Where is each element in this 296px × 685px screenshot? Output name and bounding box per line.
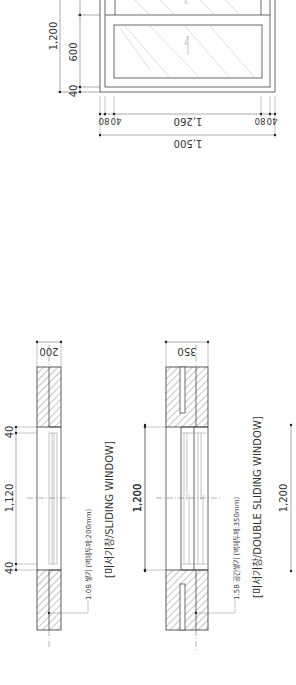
- wall-note-1.5b: 1.5B 공간쌓기 (벽체두께:350mm): [232, 497, 241, 600]
- dim-opening-1200-double: 1,200: [132, 484, 143, 513]
- dim-overall-1200-double: 1,200: [278, 484, 289, 513]
- wall-thickness-200: 200: [39, 346, 58, 357]
- cavity-wall-section-lower: [166, 570, 208, 630]
- elevation-inner-frame: [105, 0, 270, 87]
- sash-handle-icon: [185, 36, 188, 55]
- dim-sash-right: 80: [255, 116, 266, 126]
- plan-sliding-window: 200 40 1,120 40 1.0B 쌓기 (벽체두께:200mm) [미서…: [4, 340, 146, 648]
- dim-total-width: 1,500: [174, 138, 203, 149]
- title-double-sliding-window: [미서기창/DOUBLE SLIDING WINDOW]: [252, 416, 263, 598]
- dim-1120: 1,120: [4, 484, 15, 513]
- cavity-wall-section-upper: [166, 367, 208, 427]
- title-sliding-window: [미서기창/SLIDING WINDOW]: [104, 441, 115, 578]
- cavity-gap-upper: [180, 367, 185, 413]
- dim-frame-left: 40: [111, 116, 122, 126]
- plan-double-sliding-window: 350 1,200 1.5B 공간쌓기 (벽체두께:350mm) [미서기창/D…: [132, 340, 292, 652]
- dim-height-total: 1,200: [48, 22, 59, 51]
- dim-frame-bottom: 40: [68, 85, 79, 98]
- wall-note-1.0b: 1.0B 쌓기 (벽체두께:200mm): [84, 509, 93, 600]
- dim-lower-sash: 600: [68, 42, 79, 61]
- cavity-gap-lower: [180, 584, 185, 630]
- dim-sash-left: 80: [99, 116, 110, 126]
- sash-profile: [49, 433, 57, 564]
- window-elevation: 1,200 600 40 1,260 1,500 40 80 40 8: [48, 0, 277, 149]
- dim-frame-right: 40: [267, 116, 278, 126]
- dim-frame-40-bottom: 40: [4, 562, 15, 575]
- dim-frame-40-top: 40: [4, 426, 15, 439]
- dim-glass-width: 1,260: [174, 116, 203, 127]
- wall-thickness-350: 350: [177, 346, 196, 357]
- window-detail-drawing: 1,200 600 40 1,260 1,500 40 80 40 8: [0, 0, 296, 685]
- sash-handle-icon: [185, 0, 188, 3]
